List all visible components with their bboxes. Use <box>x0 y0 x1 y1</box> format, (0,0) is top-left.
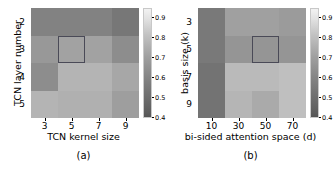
colorbar-tick-label: 0.8 <box>319 35 332 42</box>
panel-a-caption: (a) <box>4 150 163 161</box>
colorbar-tick-label: 0.4 <box>152 115 165 122</box>
colorbar-tick-label: 0.6 <box>319 75 332 82</box>
panel-b-x-axis-label: bi-sided attention space (d) <box>171 131 330 142</box>
heatmap-cell <box>85 36 112 64</box>
heatmap-cell <box>31 36 58 64</box>
panel-a-heatmap-grid <box>31 8 139 118</box>
colorbar-tick-label: 0.9 <box>319 15 332 22</box>
heatmap-cell <box>198 91 225 119</box>
figure-heatmap-pair: TCN layer number 2 3 4 5 3 5 7 9 TCN ker… <box>0 0 334 171</box>
panel-b-plot-area <box>198 8 306 118</box>
heatmap-cell <box>58 36 85 64</box>
panel-a-colorbar-gradient <box>143 8 152 118</box>
heatmap-cell <box>85 8 112 36</box>
y-tick-label: 4 <box>12 63 28 91</box>
panel-b: basis size (k) 3 5 7 9 10 30 50 70 bi-si… <box>167 0 334 171</box>
panel-b-colorbar-tick-labels: 0.90.80.70.60.50.4 <box>319 8 334 118</box>
panel-a-colorbar <box>143 8 152 118</box>
panel-a-colorbar-tick-labels: 0.90.80.70.60.50.4 <box>152 8 167 118</box>
heatmap-cell <box>58 8 85 36</box>
panel-b-caption: (b) <box>171 150 330 161</box>
y-tick-label: 7 <box>179 63 195 91</box>
colorbar-tick-label: 0.5 <box>319 95 332 102</box>
heatmap-cell <box>225 63 252 91</box>
heatmap-cell <box>279 8 306 36</box>
heatmap-cell <box>85 63 112 91</box>
colorbar-tick-label: 0.6 <box>152 75 165 82</box>
heatmap-cell <box>112 63 139 91</box>
panel-a-x-axis-label: TCN kernel size <box>4 131 163 142</box>
heatmap-cell <box>198 36 225 64</box>
panel-a-y-tick-labels: 2 3 4 5 <box>12 8 28 118</box>
heatmap-cell <box>112 91 139 119</box>
heatmap-cell <box>58 91 85 119</box>
heatmap-cell <box>279 63 306 91</box>
y-tick-label: 3 <box>179 8 195 36</box>
colorbar-tick-label: 0.8 <box>152 35 165 42</box>
heatmap-cell <box>58 63 85 91</box>
heatmap-cell <box>252 8 279 36</box>
y-tick-label: 2 <box>12 8 28 36</box>
panel-b-colorbar <box>310 8 319 118</box>
y-tick-label: 3 <box>12 36 28 64</box>
heatmap-cell <box>279 91 306 119</box>
heatmap-cell <box>198 8 225 36</box>
colorbar-tick-label: 0.9 <box>152 15 165 22</box>
heatmap-cell <box>252 36 279 64</box>
panel-a-plot-area <box>31 8 139 118</box>
panel-b-heatmap-grid <box>198 8 306 118</box>
panel-b-y-tick-labels: 3 5 7 9 <box>179 8 195 118</box>
heatmap-cell <box>279 36 306 64</box>
colorbar-tick-label: 0.7 <box>152 55 165 62</box>
y-tick-label: 5 <box>12 91 28 119</box>
heatmap-cell <box>85 91 112 119</box>
y-tick-label: 5 <box>179 36 195 64</box>
colorbar-tick-label: 0.7 <box>319 55 332 62</box>
heatmap-cell <box>225 36 252 64</box>
heatmap-cell <box>112 36 139 64</box>
y-tick-label: 9 <box>179 91 195 119</box>
panel-a: TCN layer number 2 3 4 5 3 5 7 9 TCN ker… <box>0 0 167 171</box>
heatmap-cell <box>31 63 58 91</box>
heatmap-cell <box>225 91 252 119</box>
colorbar-tick-label: 0.5 <box>152 95 165 102</box>
heatmap-cell <box>198 63 225 91</box>
heatmap-cell <box>252 91 279 119</box>
heatmap-cell <box>31 8 58 36</box>
heatmap-cell <box>252 63 279 91</box>
panel-b-colorbar-gradient <box>310 8 319 118</box>
heatmap-cell <box>112 8 139 36</box>
colorbar-tick-label: 0.4 <box>319 115 332 122</box>
heatmap-cell <box>31 91 58 119</box>
heatmap-cell <box>225 8 252 36</box>
